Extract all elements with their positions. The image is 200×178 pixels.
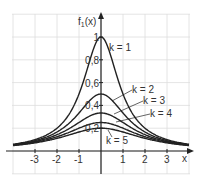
x-tick-label: -1 <box>74 154 83 165</box>
label-k3: k = 3 <box>143 95 165 106</box>
y-tick-label: 0,2 <box>85 123 99 134</box>
x-tick-label: 1 <box>120 154 126 165</box>
x-tick-label: -3 <box>30 154 39 165</box>
y-tick-label: 0,6 <box>85 78 99 89</box>
chart: f1(x) x -3-2-1123 0,20,40,60,81 k = 1 k … <box>0 0 200 178</box>
x-tick-label: -2 <box>52 154 61 165</box>
y-tick-label: 0,8 <box>85 55 99 66</box>
y-tick-label: 1 <box>93 32 99 43</box>
label-k1: k = 1 <box>109 42 131 53</box>
label-k5: k = 5 <box>106 135 128 146</box>
x-tick-label: 2 <box>142 154 148 165</box>
x-axis-label: x <box>182 153 187 164</box>
x-tick-label: 3 <box>164 154 170 165</box>
y-tick-label: 0,4 <box>85 100 99 111</box>
y-axis-label: f1(x) <box>78 16 96 28</box>
label-k2: k = 2 <box>132 84 154 95</box>
label-k4: k = 4 <box>150 108 172 119</box>
